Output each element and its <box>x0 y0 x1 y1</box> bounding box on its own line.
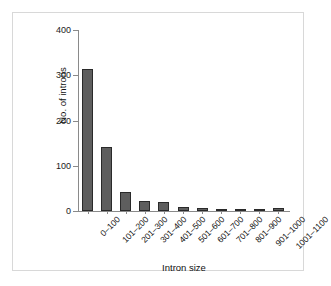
x-axis-tick <box>278 211 279 214</box>
x-axis-title: Intron size <box>78 262 290 273</box>
x-axis-tick <box>259 211 260 214</box>
bar <box>101 147 112 211</box>
y-axis-tick-label: 100 <box>56 161 71 170</box>
y-axis-tick-label: 400 <box>56 26 71 35</box>
y-axis-tick <box>73 75 78 76</box>
y-axis-title: No. of introns <box>57 67 68 124</box>
plot-area: 0100200300400 <box>78 30 288 211</box>
bar <box>139 201 150 211</box>
bar <box>158 202 169 211</box>
x-axis-tick <box>221 211 222 214</box>
x-axis-line <box>78 211 290 212</box>
bar <box>120 192 131 211</box>
x-axis-tick <box>183 211 184 214</box>
x-axis-tick <box>88 211 89 214</box>
x-axis-tick <box>240 211 241 214</box>
x-axis-tick <box>126 211 127 214</box>
x-axis-tick <box>164 211 165 214</box>
x-axis-tick <box>202 211 203 214</box>
x-axis-tick <box>145 211 146 214</box>
y-axis-tick <box>73 121 78 122</box>
bar <box>82 69 93 211</box>
y-axis-tick-label: 0 <box>66 207 71 216</box>
x-axis-tick <box>107 211 108 214</box>
y-axis-tick <box>73 211 78 212</box>
y-axis-tick <box>73 30 78 31</box>
y-axis-tick <box>73 166 78 167</box>
